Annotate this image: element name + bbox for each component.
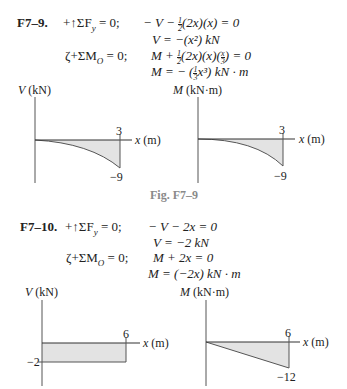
f7-9-m-axis-label: M (kN·m)	[173, 83, 222, 98]
f7-10-v-value: −2	[27, 355, 40, 370]
f7-9-v-x-end: 3	[116, 124, 122, 139]
f7-9-m-min: −9	[274, 169, 287, 184]
f7-10-shear-diagram	[38, 300, 140, 386]
moment-eq-line2-f7-10: M = (−2x) kN · m	[148, 266, 241, 281]
f7-9-m-x-end: 3	[279, 123, 285, 138]
moment-eq-line1-f7-10: M + 2x = 0	[153, 250, 213, 265]
f7-9-v-axis-label: V V (kN)(kN)	[18, 83, 51, 98]
moment-suffix: = 0;	[104, 250, 128, 265]
f7-9-m-x-axis-label: x (m)	[299, 132, 325, 147]
f7-10-v-x-end: 6	[123, 327, 129, 342]
f7-10-m-min: −12	[277, 370, 296, 385]
force-sum-symbol: +↑ΣF	[65, 219, 94, 234]
problem-label-f7-10: F7–10.	[20, 219, 57, 235]
figure-caption-f7-9: Fig. F7–9	[150, 188, 198, 203]
force-suffix: = 0;	[98, 219, 122, 234]
moment-sum-symbol: ζ+ΣM	[66, 250, 98, 265]
f7-10-m-axis-label: M (kN·m)	[180, 285, 229, 300]
f7-10-v-x-axis-label: x (m)	[143, 336, 169, 351]
f7-10-m-x-axis-label: x (m)	[303, 335, 329, 350]
f7-9-v-min: −9	[110, 170, 123, 185]
force-eq-line1-f7-10: − V − 2x = 0	[148, 219, 217, 234]
f7-10-v-axis-label: V (kN)	[25, 285, 58, 300]
moment-condition-f7-10: ζ+ΣMO = 0;	[66, 250, 128, 271]
force-eq-line2-f7-10: V = −2 kN	[153, 235, 209, 250]
force-condition-f7-10: +↑ΣFy = 0;	[65, 219, 122, 240]
f7-9-v-x-axis-label: x (m)	[135, 133, 161, 148]
f7-10-m-x-end: 6	[285, 326, 291, 341]
